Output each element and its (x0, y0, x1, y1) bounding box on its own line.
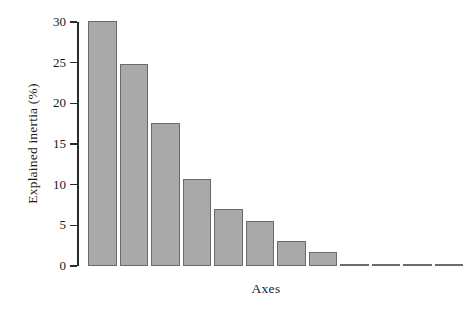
bar (309, 252, 338, 266)
bar (340, 264, 369, 266)
bar (372, 264, 401, 266)
y-axis-tick (70, 103, 77, 105)
bar (151, 123, 180, 266)
bar (88, 21, 117, 266)
x-axis-title: Axes (77, 281, 455, 297)
bar (435, 264, 463, 266)
y-axis-tick (70, 62, 77, 64)
y-axis-tick-label: 25 (26, 56, 66, 69)
bar (403, 264, 432, 266)
bar (246, 221, 275, 266)
y-axis-tick-label: 15 (26, 137, 66, 150)
bar (120, 64, 149, 266)
y-axis-tick (70, 21, 77, 23)
y-axis-tick (70, 143, 77, 145)
y-axis-tick (70, 265, 77, 267)
y-axis-tick-label: 30 (26, 15, 66, 28)
bar (183, 179, 212, 266)
plot-area (77, 22, 455, 266)
y-axis-tick (70, 184, 77, 186)
y-axis-tick-label: 5 (26, 218, 66, 231)
bar (277, 241, 306, 266)
y-axis-tick-label: 0 (26, 259, 66, 272)
y-axis-tick-label: 20 (26, 96, 66, 109)
y-axis-tick (70, 225, 77, 227)
y-axis-tick-label: 10 (26, 178, 66, 191)
bar (214, 209, 243, 266)
